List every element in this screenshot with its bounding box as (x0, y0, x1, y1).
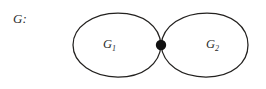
right-block-label-base: G (206, 37, 215, 51)
graph-diagram: G: G 1 G 2 (0, 0, 266, 89)
right-block-label-index: 2 (215, 44, 219, 53)
right-loop-edge (161, 13, 248, 77)
cut-vertex-dot (156, 40, 166, 50)
right-block-label: G 2 (206, 37, 219, 53)
graph-name-label: G: (13, 11, 27, 26)
left-block-label-index: 1 (112, 44, 116, 53)
left-block-label: G 1 (103, 37, 116, 53)
left-loop-edge (73, 13, 161, 77)
left-block-label-base: G (103, 37, 112, 51)
figure-canvas: G: G 1 G 2 (0, 0, 266, 89)
